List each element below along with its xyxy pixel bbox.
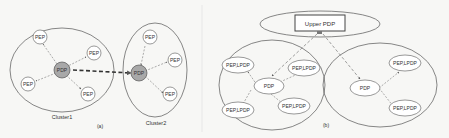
c1-pep-label: PEP	[89, 50, 100, 56]
upper-pdp-port	[317, 31, 322, 34]
right-cluster-boundary	[323, 43, 437, 127]
upper-pdp-label: Upper PDP	[305, 21, 335, 27]
link-left-node3	[243, 90, 251, 104]
left-pep-lpdp-label: PEP,LPDP	[226, 62, 250, 68]
link-c2-pep1	[141, 46, 145, 65]
panel-b: Upper PDP PDP PEP,LPDP PEP,LPDP	[219, 11, 437, 130]
link-c2-pep3	[145, 76, 163, 93]
right-pdp-label: PDP	[360, 85, 371, 91]
c1-pep-label: PEP	[35, 34, 46, 40]
left-pdp-label: PDP	[264, 83, 275, 89]
panel-a: PDP PEP PEP PEP PEP PDP PEP PEP PEP Clus…	[10, 23, 187, 129]
c2-pep-label: PEP	[145, 34, 156, 40]
c2-pep-label: PEP	[170, 57, 181, 63]
left-pep-lpdp-label: PEP,LPDP	[282, 103, 306, 109]
right-pep-lpdp-label: PEP,LPDP	[393, 60, 417, 66]
link-right-node1	[379, 72, 399, 88]
c1-pep-label: PEP	[23, 81, 34, 87]
diagram-canvas: PDP PEP PEP PEP PEP PDP PEP PEP PEP Clus…	[0, 0, 449, 138]
link-c2-pep2	[145, 62, 167, 71]
left-pep-lpdp-label: PEP,LPDP	[292, 65, 316, 71]
link-pdp-to-pdp	[73, 70, 131, 73]
link-c1-pep1	[43, 44, 57, 64]
c2-pdp-label: PDP	[134, 70, 145, 76]
link-upper-right-pdp	[323, 34, 360, 79]
cluster1-label: Cluster1	[52, 114, 72, 120]
c1-pep-label: PEP	[83, 91, 94, 97]
panel-a-caption: (a)	[97, 123, 103, 129]
panel-b-caption: (b)	[323, 122, 329, 128]
c2-pep-label: PEP	[165, 91, 176, 97]
right-pep-lpdp-label: PEP,LPDP	[393, 105, 417, 111]
left-pep-lpdp-label: PEP,LPDP	[226, 107, 250, 113]
cluster2-label: Cluster2	[146, 120, 166, 126]
c1-pdp-label: PDP	[57, 67, 68, 73]
link-c1-pep3	[36, 73, 56, 81]
link-right-node2	[379, 88, 393, 106]
link-c1-pep4	[66, 75, 81, 89]
